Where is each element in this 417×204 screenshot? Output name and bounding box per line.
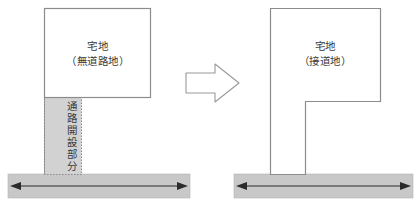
left-plot-label: 宅地 （無道路地） [44,40,151,68]
right-plot-label-line2: （接道地） [270,55,380,68]
diagram-canvas: 宅地 （無道路地） 通路開設部分 宅地 （接道地） [0,0,417,204]
right-plot-label: 宅地 （接道地） [270,40,380,68]
right-plot-outline [271,9,381,175]
left-plot-label-line1: 宅地 [44,40,151,53]
right-plot-label-line1: 宅地 [270,40,380,53]
transform-arrow-icon [186,64,239,102]
left-plot-label-line2: （無道路地） [44,55,151,68]
corridor-label: 通路開設部分 [52,101,76,173]
